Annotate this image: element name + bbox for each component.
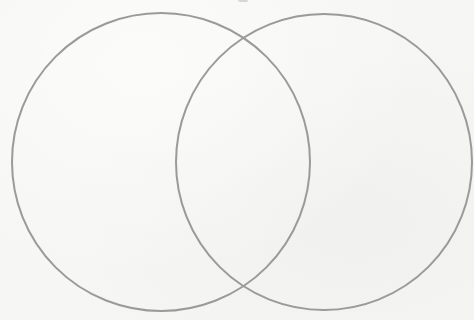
venn-diagram: [0, 0, 474, 320]
venn-circle-right: [176, 14, 472, 310]
venn-circle-left: [12, 13, 310, 311]
venn-diagram-canvas: [0, 0, 474, 320]
